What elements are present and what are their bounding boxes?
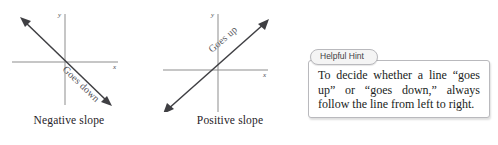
graph-positive-slope: x y Goes up Positive slope (155, 0, 300, 145)
graph-negative-slope: x y Goes down Negative slope (0, 0, 160, 145)
line-annotation-goes-down: Goes down (61, 64, 103, 105)
caption-negative-slope: Negative slope (0, 114, 138, 126)
helpful-hint-tab-label: Helpful Hint (310, 49, 378, 65)
graph-negative-slope-svg: x y Goes down (0, 0, 160, 112)
x-axis-label: x (112, 63, 117, 71)
helpful-hint-callout: Helpful Hint To decide whether a line “g… (308, 45, 490, 118)
slope-line (167, 23, 265, 110)
y-axis-label: y (57, 11, 62, 19)
y-axis-label: y (210, 11, 215, 19)
graph-positive-slope-svg: x y Goes up (155, 0, 300, 112)
x-axis-label: x (262, 71, 267, 79)
helpful-hint-body: To decide whether a line “goes up” or “g… (308, 60, 490, 118)
caption-positive-slope: Positive slope (155, 114, 305, 126)
helpful-hint-text: To decide whether a line “goes up” or “g… (318, 68, 480, 112)
slope-figure: x y Goes down Negative slope x y Goes up (0, 0, 498, 145)
